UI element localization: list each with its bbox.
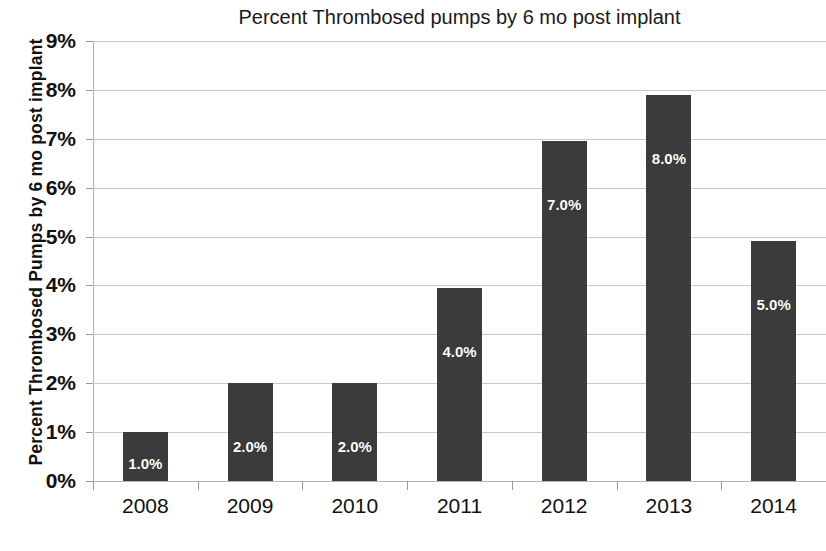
bar-value-label: 7.0% [529,196,600,213]
x-axis-tick-mark [721,481,722,490]
bar[interactable] [332,383,377,481]
gridline [93,481,826,482]
gridline [93,139,826,140]
bar-value-label: 2.0% [319,438,390,455]
chart-title: Percent Thrombosed pumps by 6 mo post im… [93,6,826,29]
x-axis-tick-mark [93,481,94,490]
x-axis-tick-label: 2008 [93,494,198,518]
bar-value-label: 2.0% [215,438,286,455]
y-axis-tick-label: 3% [10,322,76,346]
bar[interactable] [228,383,273,481]
x-axis-tick-label: 2014 [721,494,826,518]
y-axis-tick-label: 2% [10,371,76,395]
y-axis-tick-label: 1% [10,420,76,444]
plot-area: 1.0%2.0%2.0%4.0%7.0%8.0%5.0% [93,41,826,481]
y-axis-tick-label: 8% [10,78,76,102]
y-axis-tick-label: 6% [10,176,76,200]
y-axis-tick-label: 9% [10,29,76,53]
x-axis-tick-label: 2013 [617,494,722,518]
bar[interactable] [437,288,482,481]
x-axis-tick-label: 2010 [302,494,407,518]
gridline [93,41,826,42]
bar-value-label: 1.0% [110,455,181,472]
y-axis-tick-label: 7% [10,127,76,151]
x-axis-tick-mark [198,481,199,490]
bar-value-label: 5.0% [738,296,809,313]
gridline [93,237,826,238]
y-axis-tick-label: 4% [10,273,76,297]
bar-value-label: 4.0% [424,343,495,360]
x-axis-tick-mark [512,481,513,490]
x-axis-tick-label: 2009 [198,494,303,518]
bar-value-label: 8.0% [633,150,704,167]
y-axis-tick-label: 0% [10,469,76,493]
y-axis-tick-label: 5% [10,225,76,249]
bar[interactable] [751,241,796,481]
gridline [93,188,826,189]
x-axis-tick-mark [617,481,618,490]
x-axis-tick-mark [407,481,408,490]
chart-container: Percent Thrombosed Pumps by 6 mo post im… [0,0,826,551]
x-axis-tick-label: 2012 [512,494,617,518]
gridline [93,285,826,286]
gridline [93,90,826,91]
x-axis-tick-label: 2011 [407,494,512,518]
x-axis-tick-mark [302,481,303,490]
bar[interactable] [542,141,587,481]
